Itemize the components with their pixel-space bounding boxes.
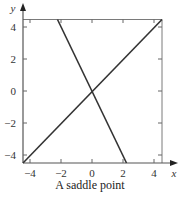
y-axis-arrow-icon bbox=[20, 3, 26, 11]
y-tick-label: −4 bbox=[4, 149, 16, 161]
saddle-chart: 4 2 0 −2 −4 −4 −2 0 2 4 y x bbox=[0, 0, 180, 197]
line-y-equals-neg-2x bbox=[58, 20, 127, 164]
y-tick-label: 4 bbox=[11, 21, 17, 33]
y-tick-label: 2 bbox=[11, 53, 17, 65]
y-tick-label: 0 bbox=[11, 85, 17, 97]
chart-caption: A saddle point bbox=[0, 178, 180, 193]
y-tick-label: −2 bbox=[4, 117, 16, 129]
x-axis-arrow-icon bbox=[170, 160, 178, 166]
y-axis-label: y bbox=[10, 2, 16, 14]
